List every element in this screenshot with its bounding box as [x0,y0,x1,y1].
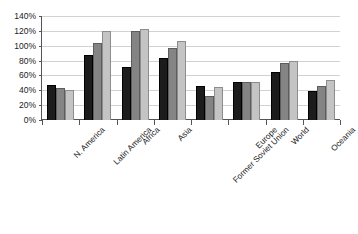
y-tick-label: 60% [19,71,36,80]
bar-group [117,16,154,120]
bar [177,41,186,120]
x-tick-label: World [290,126,311,147]
bar [84,55,93,120]
bar [271,72,280,120]
bar [251,82,260,120]
bar-group [79,16,116,120]
bar [159,58,168,120]
bar [131,31,140,120]
bar [289,61,298,120]
bar [168,48,177,120]
bar-group [303,16,340,120]
bar [326,80,335,120]
bar-group [42,16,79,120]
x-tick-mark [117,120,118,125]
x-tick-mark [191,120,192,125]
y-tick-label: 80% [19,56,36,65]
bar [317,86,326,120]
bar [65,90,74,120]
y-tick-label: 40% [19,86,36,95]
y-tick-label: 140% [14,12,36,21]
bar-group [266,16,303,120]
bar [47,85,56,120]
y-tick-label: 0% [24,116,36,125]
x-tick-mark [340,120,341,125]
x-axis-labels: N. AmericaLatin AmericaAfricaAsiaFormer … [42,126,340,226]
x-axis-ticks [42,120,340,125]
bar-group [154,16,191,120]
x-tick-label: Asia [177,126,194,143]
bar-groups [42,16,340,120]
bar [102,31,111,120]
x-tick-label: Oceania [330,126,357,153]
bar [214,87,223,120]
x-tick-mark [42,120,43,125]
x-tick-label: Former Soviet Union [232,126,291,185]
bar [56,88,65,120]
x-tick-label: N. America [72,126,106,160]
bar [233,82,242,120]
bar [196,86,205,120]
x-tick-mark [266,120,267,125]
y-tick-label: 120% [14,27,36,36]
bar [242,82,251,120]
x-tick-mark [79,120,80,125]
y-tick-label: 100% [14,41,36,50]
y-tick-label: 20% [19,101,36,110]
bar [122,67,131,120]
bar [205,96,214,120]
bar-group [228,16,265,120]
bar-group [191,16,228,120]
bar [93,43,102,120]
x-tick-mark [228,120,229,125]
bar [140,29,149,120]
bar [308,91,317,120]
bar [280,63,289,120]
